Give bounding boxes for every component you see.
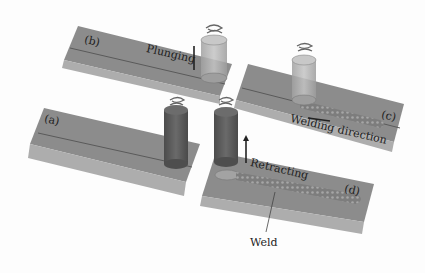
weld-label: Weld bbox=[250, 236, 277, 249]
panel-a-tool bbox=[164, 98, 188, 170]
fsw-diagram: (b) Plunging (c) Welding direction (a) R… bbox=[0, 0, 425, 273]
rotation-arrow-icon bbox=[219, 98, 233, 103]
rotation-arrow-icon bbox=[297, 44, 312, 49]
panel-b-tool bbox=[201, 25, 227, 83]
panel-c-tool bbox=[292, 44, 316, 106]
rotation-arrow-icon bbox=[170, 98, 184, 103]
